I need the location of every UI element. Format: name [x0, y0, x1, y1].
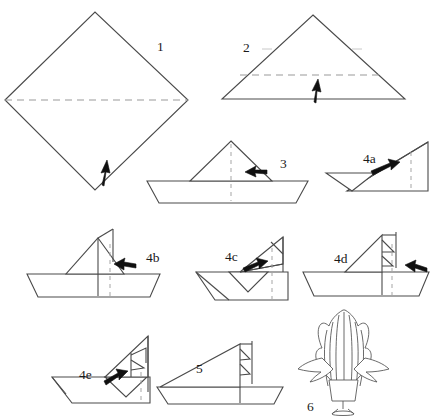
diagram-canvas: 1 2 3	[0, 0, 439, 417]
step-4d-group: 4d	[303, 232, 429, 296]
step-1-label: 1	[157, 39, 164, 54]
step-4b-hull	[27, 274, 160, 297]
step-4b-group: 4b	[27, 229, 160, 297]
step-4d-arrow-left	[405, 260, 427, 272]
step-6-group: 6	[298, 310, 389, 416]
step-4e-group: 4e	[52, 336, 150, 404]
step-4d-inner-fold-2	[382, 256, 393, 266]
step-4c-group: 4c	[196, 237, 288, 300]
origami-diagram-figure: 1 2 3	[0, 0, 439, 417]
step-4a-label: 4a	[363, 151, 376, 166]
step-5-label: 5	[196, 361, 203, 376]
step-6-cup	[329, 380, 358, 401]
step-5-group: 5	[157, 341, 283, 404]
step-2-group: 2	[222, 15, 405, 103]
step-5-inner-fold-1	[240, 349, 250, 360]
step-3-hull	[147, 181, 308, 203]
step-5-inner-fold-2	[240, 364, 250, 375]
step-4c-label: 4c	[225, 249, 238, 264]
step-6-label: 6	[307, 399, 314, 414]
step-5-hull	[157, 387, 283, 404]
step-2-label: 2	[243, 40, 250, 55]
step-3-label: 3	[280, 156, 287, 171]
step-4b-spar-link	[98, 229, 113, 238]
step-4a-group: 4a	[326, 142, 428, 191]
step-4e-label: 4e	[79, 367, 92, 382]
step-4d-sail	[345, 235, 382, 272]
step-2-triangle-outline	[222, 15, 405, 99]
step-4b-label: 4b	[146, 250, 160, 265]
step-4d-label: 4d	[334, 251, 348, 266]
step-1-group: 1	[5, 12, 188, 190]
step-4d-hull	[303, 272, 429, 296]
step-4b-sail	[66, 238, 124, 274]
step-3-group: 3	[147, 141, 308, 203]
